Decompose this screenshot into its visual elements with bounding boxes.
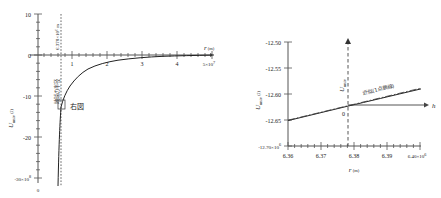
left-xtick-label-5: 5×107 xyxy=(203,60,215,67)
right-ytick-label-0: -12.50 xyxy=(266,40,282,46)
left-potential-curve xyxy=(58,55,212,186)
left-chart-panel: 10 0 -10 -20 -30×108 1 2 3 4 5×107 0 r(m… xyxy=(0,0,230,198)
left-xtick-label-3: 3 xyxy=(141,61,144,67)
figure-container: 10 0 -10 -20 -30×108 1 2 3 4 5×107 0 r(m… xyxy=(0,0,441,198)
right-xtick-label-3: 6.39 xyxy=(382,153,393,159)
left-xtick-label-4: 4 xyxy=(176,61,179,67)
right-xtick-label-4: 6.40×106 xyxy=(408,152,427,159)
right-xtick-label-1: 6.37 xyxy=(316,153,327,159)
inner-vertical-axis-label: Uuniv xyxy=(338,78,347,92)
earth-radius-value-label: 6.378×10⁶ m xyxy=(55,24,60,50)
inner-horizontal-axis-arrow xyxy=(424,103,429,108)
right-ytick-label-3: -12.65 xyxy=(266,118,282,124)
left-xtick-label-1: 1 xyxy=(71,61,74,67)
left-ytick-label-m30: -30×108 xyxy=(14,174,31,181)
left-origin-label: 0 xyxy=(37,188,40,193)
left-chart-svg: 10 0 -10 -20 -30×108 1 2 3 4 5×107 0 r(m… xyxy=(0,0,230,198)
h-axis-label: h xyxy=(432,102,436,110)
right-x-axis-label: r(m) xyxy=(349,166,360,174)
left-ytick-label-m20: -20 xyxy=(23,135,31,141)
right-ytick-label-1: -12.55 xyxy=(266,66,282,72)
left-y-axis-label: Uuniv(J) xyxy=(7,108,16,128)
right-chart-panel: -12.50 -12.55 -12.60 -12.65 -12.70×106 6… xyxy=(230,0,441,198)
right-ytick-label-4: -12.70×106 xyxy=(258,142,281,149)
approximation-annotation-label: 近似(1点鎖線) xyxy=(362,82,395,97)
inner-vertical-axis-arrow xyxy=(345,38,351,44)
right-chart-svg: -12.50 -12.55 -12.60 -12.65 -12.70×106 6… xyxy=(230,0,441,198)
right-xtick-label-2: 6.38 xyxy=(349,153,360,159)
right-origin-label: 0 xyxy=(342,111,345,117)
left-x-axis-label: r(m) xyxy=(204,44,215,52)
right-ytick-label-2: -12.60 xyxy=(266,92,282,98)
left-ytick-label-0: 0 xyxy=(28,53,31,59)
left-ytick-label-10: 10 xyxy=(25,12,31,18)
right-xtick-label-0: 6.36 xyxy=(283,153,294,159)
right-y-axis-label: Uuniv(J) xyxy=(254,90,263,110)
right-figure-callout-label: 右図 xyxy=(70,102,84,111)
left-ytick-label-m10: -10 xyxy=(23,94,31,100)
